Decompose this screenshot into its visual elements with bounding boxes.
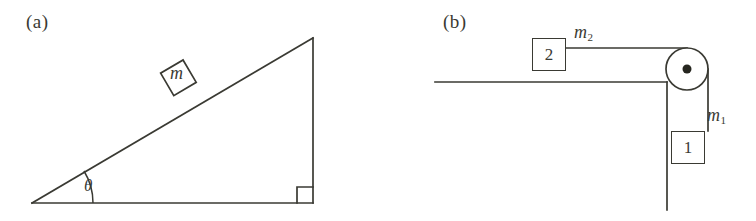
block-one-number: 1 bbox=[672, 138, 704, 158]
right-angle-marker bbox=[297, 187, 313, 203]
mass-m2-base: m bbox=[574, 22, 587, 42]
block-two: 2 bbox=[532, 38, 566, 71]
incline-drawing bbox=[0, 0, 378, 221]
block-one: 1 bbox=[671, 131, 705, 164]
mass-m2-subscript: 2 bbox=[587, 31, 593, 43]
block-two-number: 2 bbox=[533, 45, 565, 65]
physics-figure: (a) m θ (b) bbox=[0, 0, 756, 221]
mass-m2-label: m2 bbox=[574, 22, 593, 43]
pulley-drawing bbox=[378, 0, 756, 221]
mass-m1-subscript: 1 bbox=[720, 114, 726, 126]
theta-angle-label: θ bbox=[84, 176, 92, 196]
panel-a-inclined-plane: (a) m θ bbox=[0, 0, 378, 221]
mass-m1-base: m bbox=[707, 105, 720, 125]
pulley-axle-dot bbox=[683, 65, 692, 74]
mass-m-label: m bbox=[170, 63, 183, 84]
panel-b-label: (b) bbox=[443, 11, 467, 33]
panel-b-pulley-system: (b) 2 1 m2 m1 bbox=[378, 0, 756, 221]
mass-m1-label: m1 bbox=[707, 105, 726, 126]
panel-a-label: (a) bbox=[26, 11, 49, 33]
